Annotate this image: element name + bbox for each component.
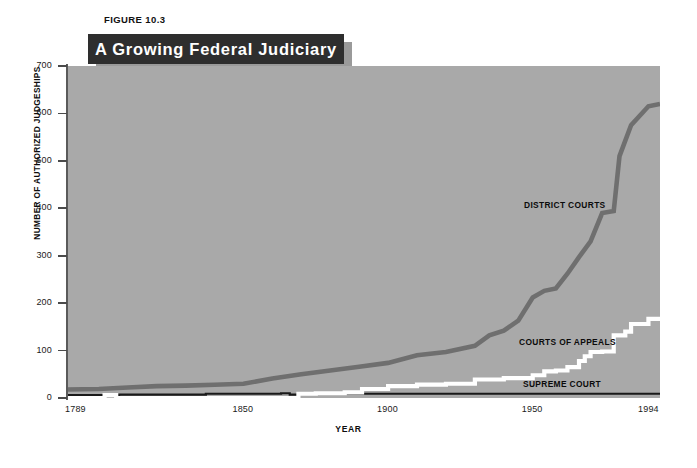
figure-container: FIGURE 10.3 A Growing Federal Judiciary … (0, 0, 697, 468)
title-banner: A Growing Federal Judiciary (88, 34, 344, 64)
x-axis-tick-label: 1900 (377, 404, 398, 414)
x-axis-tick-label: 1789 (65, 404, 86, 414)
series-label-district-courts: DISTRICT COURTS (524, 200, 606, 210)
y-axis-tick-mark (58, 113, 67, 115)
page-title: A Growing Federal Judiciary (88, 34, 344, 64)
series-label-courts-of-appeals: COURTS OF APPEALS (519, 337, 616, 347)
y-axis-tick-mark (58, 302, 67, 304)
x-axis-tick-label: 1950 (522, 404, 543, 414)
y-axis-title: NUMBER OF AUTHORIZED JUDGESHIPS (32, 53, 42, 253)
y-axis-tick-label: 100 (18, 345, 52, 355)
y-axis-tick-mark (58, 65, 67, 67)
x-axis-tick-label: 1850 (232, 404, 253, 414)
y-axis-tick-mark (58, 207, 67, 209)
figure-number-label: FIGURE 10.3 (104, 14, 165, 25)
x-axis-title: YEAR (0, 424, 697, 434)
y-axis-tick-label: 200 (18, 297, 52, 307)
y-axis-tick-mark (58, 255, 67, 257)
series-label-supreme-court: SUPREME COURT (523, 379, 601, 389)
y-axis-tick-mark (58, 350, 67, 352)
x-axis-tick-label: 1994 (638, 404, 659, 414)
y-axis-tick-label: 0 (18, 392, 52, 402)
plot-area (67, 66, 660, 398)
chart-lines-svg (67, 66, 660, 398)
y-axis-tick-mark (58, 397, 67, 399)
y-axis-tick-mark (58, 160, 67, 162)
